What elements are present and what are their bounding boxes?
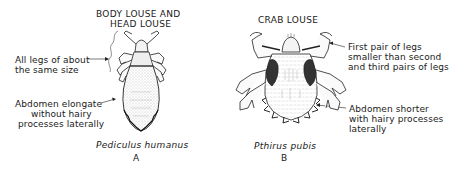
crab-louse-drawing [236, 32, 346, 123]
body-louse-drawing [88, 31, 166, 131]
louse-illustrations [0, 0, 464, 173]
